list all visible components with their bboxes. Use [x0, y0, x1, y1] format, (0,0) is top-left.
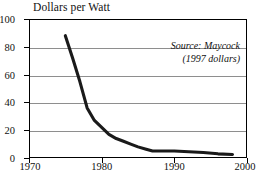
- y-tick-100: [24, 19, 29, 20]
- y-tick-60: [24, 75, 29, 76]
- chart-title: Dollars per Watt: [33, 1, 110, 13]
- y-axis-label-80: 80: [0, 41, 15, 52]
- gridline-60: [30, 76, 246, 77]
- y-axis-label-20: 20: [0, 125, 15, 136]
- y-axis-label-100: 100: [0, 14, 15, 25]
- y-axis-label-0: 0: [0, 153, 15, 164]
- gridline-20: [30, 131, 246, 132]
- x-axis-label-1980: 1980: [91, 161, 112, 172]
- x-axis-label-2000: 2000: [235, 161, 256, 172]
- units-annotation: (1997 dollars): [183, 53, 241, 64]
- y-axis-label-60: 60: [0, 69, 15, 80]
- y-axis-label-40: 40: [0, 97, 15, 108]
- y-tick-20: [24, 130, 29, 131]
- chart-container: Dollars per Watt Source: Maycock (1997 d…: [0, 0, 268, 183]
- gridline-40: [30, 103, 246, 104]
- plot-area: Source: Maycock (1997 dollars): [29, 19, 247, 158]
- source-annotation: Source: Maycock: [171, 40, 240, 51]
- x-axis-label-1990: 1990: [164, 161, 185, 172]
- y-tick-80: [24, 47, 29, 48]
- y-tick-40: [24, 102, 29, 103]
- x-axis-label-1970: 1970: [20, 161, 41, 172]
